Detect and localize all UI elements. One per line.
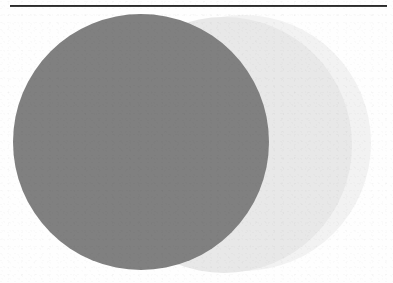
horizontal-rule bbox=[10, 5, 387, 7]
figure-canvas bbox=[0, 0, 393, 283]
dark-gray-circle bbox=[13, 14, 269, 270]
